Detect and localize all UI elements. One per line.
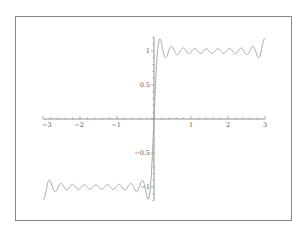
x-tick-label: −2	[74, 121, 84, 129]
x-tick-label: 3	[263, 121, 267, 129]
x-tick-label: 2	[226, 121, 230, 129]
x-tick-label: −3	[42, 121, 52, 129]
y-tick-label: 0.5	[140, 81, 150, 89]
y-tick-label: 1	[146, 47, 150, 55]
y-tick-label: −0.5	[134, 149, 150, 157]
x-tick-label: 1	[189, 121, 193, 129]
plot-area: −3−2−112310.5−0.5−1	[0, 0, 307, 234]
x-tick-label: −1	[111, 121, 121, 129]
